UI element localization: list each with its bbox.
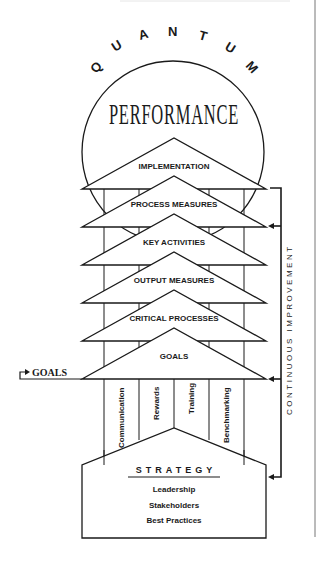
pillar-communication: Communication	[117, 387, 126, 448]
performance-title: PERFORMANCE	[109, 98, 239, 130]
arc-letter-q: Q	[87, 58, 105, 76]
layer-label: IMPLEMENTATION	[139, 162, 210, 171]
layer-label: KEY ACTIVITIES	[143, 238, 206, 247]
layer-label: PROCESS MEASURES	[131, 200, 218, 209]
strategy-item-best-practices: Best Practices	[146, 516, 202, 525]
arc-letter-m: M	[243, 58, 261, 76]
arc-letter-u: U	[109, 37, 125, 55]
continuous-improvement-loop	[270, 188, 281, 477]
arc-letter-u2: U	[222, 39, 238, 57]
continuous-improvement-label: CONTINUOUS IMPROVEMENT	[285, 244, 294, 415]
arrow-left-icon	[268, 223, 274, 229]
pillar-training: Training	[187, 383, 196, 414]
arrow-heads	[268, 223, 274, 480]
layer-label: OUTPUT MEASURES	[134, 276, 215, 285]
layer-label: GOALS	[160, 352, 189, 361]
arrow-right-icon	[25, 369, 30, 375]
strategy-heading: STRATEGY	[136, 465, 216, 475]
arc-letter-n: N	[168, 24, 177, 39]
strategy-item-stakeholders: Stakeholders	[149, 501, 200, 510]
arrow-left-icon	[268, 474, 274, 480]
strategy-item-leadership: Leadership	[153, 485, 196, 494]
arc-letter-t: T	[197, 27, 209, 44]
goals-input-label: GOALS	[32, 367, 67, 378]
pillar-rewards: Rewards	[152, 386, 161, 420]
quantum-performance-diagram: Q U A N T U M PERFORMANCE IMPLEMENTATION…	[0, 0, 326, 564]
layer-label: CRITICAL PROCESSES	[129, 314, 219, 323]
layer-stack: IMPLEMENTATIONPROCESS MEASURESKEY ACTIVI…	[82, 138, 266, 379]
arc-letter-a: A	[137, 26, 151, 43]
arrow-left-icon	[268, 376, 274, 382]
pillar-benchmarking: Benchmarking	[222, 387, 231, 443]
